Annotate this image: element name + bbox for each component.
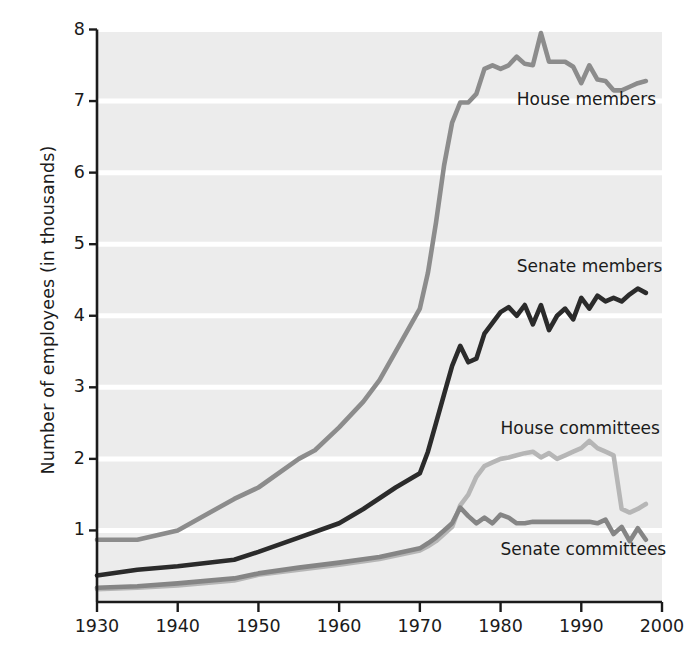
- chart-figure: Number of employees (in thousands) 12345…: [0, 0, 692, 671]
- x-tick-label: 1950: [228, 618, 288, 636]
- y-tick-label: 2: [55, 450, 85, 468]
- x-tick-label: 2000: [632, 618, 692, 636]
- x-tick-label: 1970: [390, 618, 450, 636]
- series-label-1: Senate members: [517, 258, 663, 275]
- y-tick-label: 6: [55, 164, 85, 182]
- x-tick-label: 1960: [309, 618, 369, 636]
- y-tick-label: 3: [55, 378, 85, 396]
- x-tick-label: 1930: [67, 618, 127, 636]
- y-tick-label: 1: [55, 521, 85, 539]
- y-tick-label: 5: [55, 235, 85, 253]
- x-tick-label: 1980: [471, 618, 531, 636]
- x-tick-label: 1990: [551, 618, 611, 636]
- y-tick-label: 7: [55, 92, 85, 110]
- y-tick-label: 4: [55, 307, 85, 325]
- y-tick-label: 8: [55, 21, 85, 39]
- x-tick-label: 1940: [148, 618, 208, 636]
- series-label-3: Senate committees: [501, 541, 667, 558]
- series-label-2: House committees: [501, 420, 660, 437]
- series-label-0: House members: [517, 91, 656, 108]
